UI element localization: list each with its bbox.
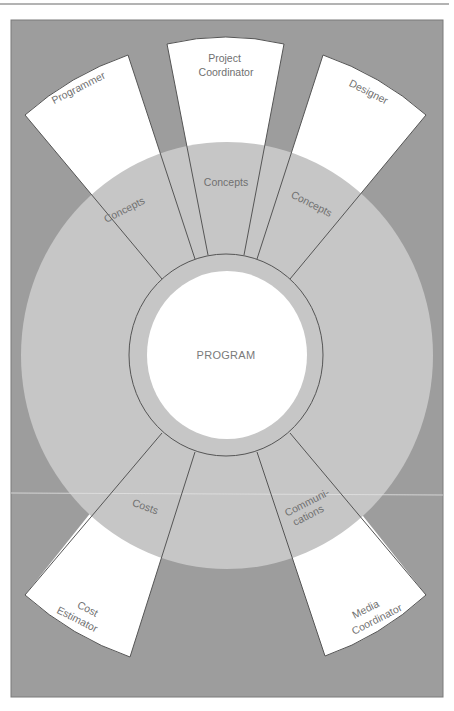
link-label-project-coordinator: Concepts xyxy=(204,176,248,188)
program-diagram: PROGRAM Programmer Project Coordinator D… xyxy=(0,0,454,711)
program-label: PROGRAM xyxy=(197,349,256,361)
